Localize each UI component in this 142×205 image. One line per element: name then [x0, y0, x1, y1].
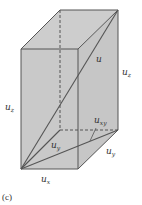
label-u: u	[96, 54, 102, 64]
label-uz-right: uz	[122, 67, 132, 78]
label-uy-outer: uy	[106, 146, 116, 158]
figure-caption: (c)	[2, 192, 12, 202]
front-face	[21, 49, 78, 169]
vector-box-diagram: u uz uz uxy uy uy ux (c)	[0, 0, 142, 205]
label-ux: ux	[41, 174, 51, 185]
label-uz-left: uz	[5, 102, 15, 113]
